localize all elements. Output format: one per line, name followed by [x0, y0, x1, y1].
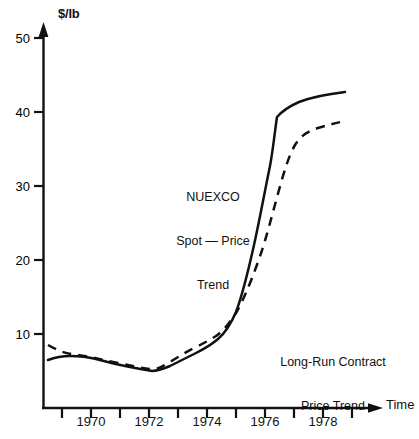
series-label-nuexco-spot: NUEXCO Spot — Price Trend	[160, 160, 266, 322]
y-tick-label-40: 40	[4, 105, 30, 120]
series-label-long-run-contract: Long-Run Contract Price Trend	[263, 325, 403, 439]
series-label-nuexco-spot-line2: Spot — Price	[160, 234, 266, 249]
x-tick-label-1972: 1972	[126, 414, 172, 429]
series-label-long-run-contract-line2: Price Trend	[263, 399, 403, 414]
series-label-nuexco-spot-line3: Trend	[160, 278, 266, 293]
y-tick-label-30: 30	[4, 179, 30, 194]
y-tick-label-20: 20	[4, 253, 30, 268]
x-tick-label-1974: 1974	[184, 414, 230, 429]
price-trend-chart: $/lb Time 50 40 30 20 10 1970 1972 1974 …	[0, 0, 419, 439]
y-axis-title: $/lb	[58, 6, 80, 21]
y-axis	[39, 22, 49, 409]
y-tick-label-10: 10	[4, 327, 30, 342]
y-tick-label-50: 50	[4, 31, 30, 46]
y-axis-ticks	[34, 38, 43, 334]
series-label-nuexco-spot-line1: NUEXCO	[160, 190, 266, 205]
series-label-long-run-contract-line1: Long-Run Contract	[263, 355, 403, 370]
x-tick-label-1970: 1970	[68, 414, 114, 429]
